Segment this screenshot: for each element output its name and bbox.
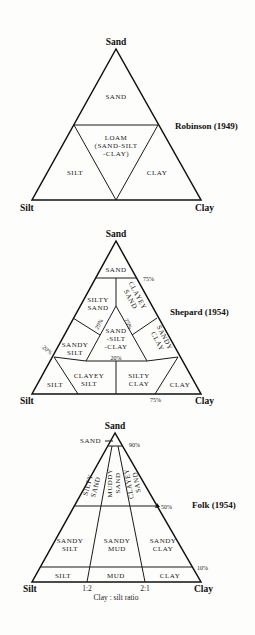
region-label: SAND — [105, 327, 126, 335]
region-label: SANDY — [57, 537, 84, 545]
vertex-silt: Silt — [23, 584, 38, 594]
region-label: SAND — [105, 266, 126, 274]
vertex-clay: Clay — [195, 203, 214, 213]
vertex-sand: Sand — [106, 37, 127, 47]
region-label: SILT — [62, 545, 78, 553]
divider — [118, 446, 145, 582]
percent-label: 75% — [143, 276, 154, 282]
diagram-title: Shepard (1954) — [170, 307, 229, 317]
percent-label: 90% — [129, 442, 140, 448]
diagram-title: Robinson (1949) — [175, 121, 238, 131]
region-label: -CLAY) — [103, 150, 129, 158]
region-label: SILTY — [87, 296, 109, 304]
vertex-silt: Silt — [20, 203, 35, 213]
region-label: CLAY — [129, 380, 149, 388]
region-label: SAND — [105, 93, 126, 101]
region-label: MUDDY — [106, 469, 114, 498]
region-label: SANDY — [104, 537, 131, 545]
triangle-outline — [32, 433, 201, 582]
region-label: CLAY — [147, 169, 167, 177]
region-label: LOAM — [105, 134, 128, 142]
diagram-title: Folk (1954) — [192, 500, 236, 510]
vertex-clay: Clay — [194, 584, 213, 594]
percent-label: 20% — [94, 318, 104, 331]
ratio-tick: 2:1 — [140, 584, 150, 593]
region-label: CLAYEY — [74, 372, 105, 380]
region-label: SANDY — [62, 341, 89, 349]
ternary-diagrams: Sand SAND LOAM (SAND-SILT -CLAY) SILT CL… — [0, 0, 255, 635]
region-label: CLAY — [153, 545, 173, 553]
region-label: MUD — [107, 572, 125, 580]
vertex-sand: Sand — [106, 229, 127, 239]
percent-label: 10% — [197, 565, 208, 571]
percent-label: 20% — [41, 344, 53, 356]
region-label: SILT — [81, 380, 97, 388]
region-label: SANDY — [150, 537, 177, 545]
divider — [54, 357, 86, 361]
region-label: SAND — [87, 304, 108, 312]
vertex-silt: Silt — [20, 396, 35, 406]
shepard-diagram: Sand SAND SILTY SAND CLAYEY SAND SAND -S… — [20, 229, 229, 406]
region-label: CLAY — [160, 572, 180, 580]
folk-diagram: Sand SAND SILTY SAND MUDDY SAND CLAYEY S… — [23, 421, 236, 602]
percent-label: 20% — [111, 355, 122, 361]
region-label: SILT — [67, 169, 83, 177]
region-label: CLAY — [170, 381, 190, 389]
vertex-clay: Clay — [195, 396, 214, 406]
region-label: SILTY — [128, 372, 150, 380]
ratio-tick: 1:2 — [82, 584, 92, 593]
divider — [87, 446, 112, 582]
vertex-sand: Sand — [105, 421, 126, 431]
region-label: -CLAY — [104, 343, 127, 351]
region-label: -SILT — [107, 335, 126, 343]
region-label: SILT — [67, 349, 83, 357]
percent-label: 75% — [150, 397, 161, 403]
percent-label: 50% — [161, 504, 172, 510]
ratio-caption: Clay : silt ratio — [94, 593, 139, 602]
region-label: SAND — [114, 472, 122, 493]
robinson-diagram: Sand SAND LOAM (SAND-SILT -CLAY) SILT CL… — [20, 37, 238, 213]
region-label: SAND — [80, 437, 101, 445]
region-label: (SAND-SILT — [95, 142, 138, 150]
region-label: SILT — [47, 381, 63, 389]
region-label: SILT — [55, 572, 71, 580]
divider — [147, 357, 178, 361]
region-label: MUD — [108, 545, 126, 553]
